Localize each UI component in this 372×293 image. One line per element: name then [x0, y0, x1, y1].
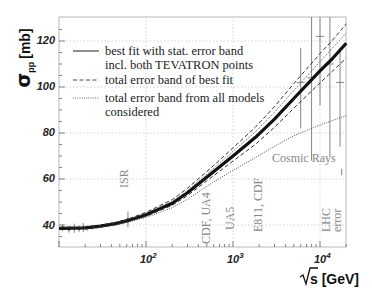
legend-label-total-error: total error band of best fit: [105, 73, 234, 87]
annotation-e811-cdf: E811, CDF: [251, 177, 265, 232]
legend: best fit with stat. error band incl. bot…: [73, 44, 264, 119]
annotations: ISR CDF, UA4 UA5 E811, CDF LHC error Cos…: [117, 151, 344, 244]
ytick-80: 80: [43, 126, 56, 138]
ytick-120: 120: [37, 34, 56, 46]
ytick-100: 100: [37, 80, 56, 92]
x-tick-labels: 102 103 104: [140, 251, 331, 265]
ylabel-sigma: σ: [12, 73, 34, 88]
xtick-1e2: 102: [140, 251, 157, 265]
ylabel-subscript: pp: [26, 61, 36, 72]
xlabel-text: s [GeV]: [310, 271, 359, 287]
legend-label-all-models: total error band from all models: [105, 91, 264, 105]
legend-label-best-fit-2: incl. both TEVATRON points: [105, 58, 253, 72]
y-axis-title: σpp[mb]: [12, 28, 36, 87]
annotation-cosmic-rays: Cosmic Rays: [272, 151, 336, 165]
ylabel-unit: [mb]: [17, 28, 33, 58]
annotation-ua5: UA5: [223, 207, 237, 230]
xtick-1e4: 104: [314, 251, 331, 265]
y-tick-labels: 120 100 80 60 40: [37, 34, 56, 231]
ytick-60: 60: [43, 172, 56, 184]
cross-section-chart: ISR CDF, UA4 UA5 E811, CDF LHC error Cos…: [0, 0, 372, 293]
annotation-error: error: [330, 209, 344, 232]
x-axis-title: s [GeV]: [300, 268, 359, 287]
annotation-isr: ISR: [117, 169, 131, 188]
ytick-40: 40: [42, 219, 56, 231]
annotation-cdf-ua4: CDF, UA4: [199, 192, 213, 244]
legend-label-all-models-2: considered: [105, 105, 160, 119]
legend-label-best-fit: best fit with stat. error band: [105, 44, 244, 58]
xtick-1e3: 103: [227, 251, 244, 265]
svg-text:σpp[mb]: σpp[mb]: [12, 28, 36, 87]
